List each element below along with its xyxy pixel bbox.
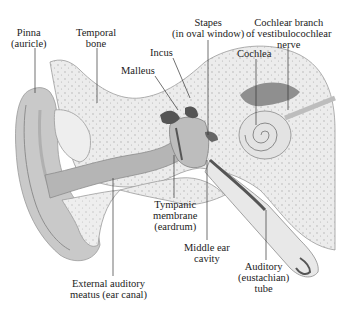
label-cochlea: Cochlea	[237, 48, 271, 59]
label-middle-ear-cavity: Middle ear cavity	[184, 242, 230, 264]
label-malleus: Malleus	[121, 65, 155, 76]
label-temporal-bone: Temporal bone	[76, 27, 116, 49]
label-auditory-tube: Auditory (eustachian) tube	[238, 261, 289, 294]
label-external-auditory-meatus: External auditory meatus (ear canal)	[70, 278, 147, 300]
label-cochlear-nerve: Cochlear branch of vestibulocochlear ner…	[246, 17, 331, 50]
label-incus: Incus	[150, 47, 173, 58]
label-tympanic-membrane: Tympanic membrane (eardrum)	[153, 199, 197, 232]
label-stapes: Stapes (in oval window)	[172, 17, 244, 39]
label-pinna: Pinna (auricle)	[11, 27, 47, 49]
